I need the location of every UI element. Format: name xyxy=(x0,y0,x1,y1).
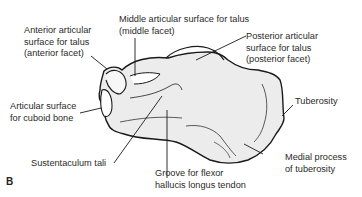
label-tuberosity: Tuberosity xyxy=(295,96,338,108)
panel-label: B xyxy=(6,176,13,187)
label-posterior-facet: Posterior articular surface for talus (p… xyxy=(246,31,318,66)
label-cuboid-surface: Articular surface for cuboid bone xyxy=(10,101,76,124)
label-medial-process: Medial process of tuberosity xyxy=(285,152,347,175)
label-anterior-facet: Anterior articular surface for talus (an… xyxy=(24,25,91,60)
label-middle-facet: Middle articular surface for talus (midd… xyxy=(119,14,249,37)
calcaneus-bone xyxy=(99,52,284,163)
label-groove-flexor: Groove for flexor hallucis longus tendon xyxy=(155,168,246,191)
label-sustentaculum-tali: Sustentaculum tali xyxy=(31,158,106,170)
